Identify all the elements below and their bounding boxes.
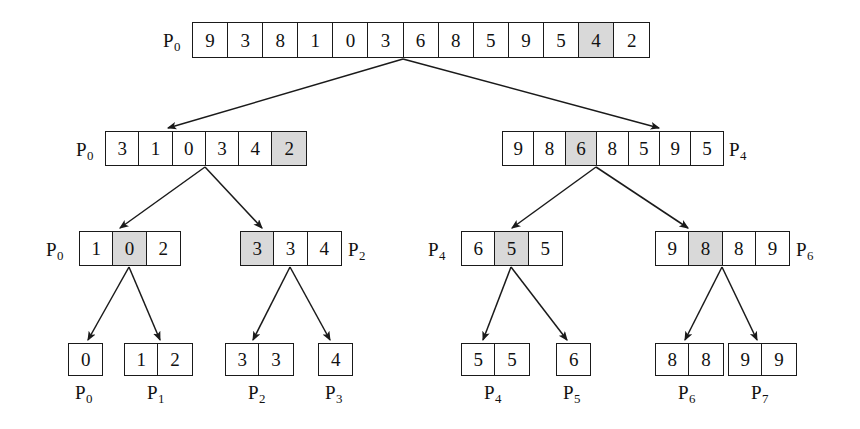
processor-label: P0 [75, 383, 93, 402]
processor-label: P4 [484, 383, 502, 402]
processor-label-text: P [751, 382, 762, 403]
processor-label-index: 4 [740, 148, 747, 163]
array-node: 9889 [655, 231, 790, 266]
array-cell: 2 [614, 23, 649, 57]
array-cell: 6 [557, 344, 590, 375]
processor-label-text: P [76, 139, 87, 160]
tree-edge [511, 267, 567, 340]
processor-label-index: 2 [259, 391, 266, 406]
array-cell: 8 [656, 344, 689, 375]
tree-edge [483, 267, 511, 340]
array-cell: 8 [597, 132, 628, 165]
array-cell: 5 [529, 232, 562, 265]
array-node: 88 [655, 343, 724, 376]
array-node: 99 [728, 343, 797, 376]
array-cell-pivot: 2 [272, 132, 305, 165]
array-cell: 4 [239, 132, 272, 165]
array-cell: 9 [656, 232, 689, 265]
tree-edge [205, 167, 262, 228]
processor-label: P4 [428, 240, 446, 259]
tree-edge [129, 267, 160, 340]
tree-edge [168, 59, 403, 128]
processor-label: P6 [796, 240, 814, 259]
tree-edge [290, 267, 330, 340]
tree-edge [596, 167, 688, 228]
array-cell: 4 [308, 232, 341, 265]
array-cell-pivot: 5 [495, 232, 528, 265]
processor-label-index: 0 [174, 39, 181, 54]
tree-edge [403, 59, 659, 128]
array-cell-pivot: 4 [579, 23, 614, 57]
processor-label: P4 [729, 140, 747, 159]
processor-label: P3 [325, 383, 343, 402]
array-cell: 8 [534, 132, 565, 165]
processor-label-text: P [46, 239, 57, 260]
processor-label-text: P [563, 382, 574, 403]
array-node: 6 [556, 343, 591, 376]
processor-label-index: 1 [158, 391, 165, 406]
array-cell: 1 [125, 344, 158, 375]
array-node: 334 [240, 231, 342, 266]
processor-label-index: 0 [57, 248, 64, 263]
processor-label-index: 4 [495, 391, 502, 406]
array-cell: 0 [69, 344, 102, 375]
array-cell: 5 [474, 23, 509, 57]
array-cell: 9 [660, 132, 691, 165]
processor-label-text: P [147, 382, 158, 403]
processor-label-index: 2 [359, 248, 366, 263]
processor-label-text: P [678, 382, 689, 403]
processor-label: P5 [563, 383, 581, 402]
array-node: 9868595 [502, 131, 724, 166]
partition-tree-diagram: 9381036859542P0310342P09868595P4102P0334… [0, 0, 860, 429]
array-cell: 2 [158, 344, 191, 375]
processor-label-text: P [729, 139, 740, 160]
array-cell: 3 [259, 344, 292, 375]
processor-label-text: P [325, 382, 336, 403]
array-cell: 3 [226, 344, 259, 375]
array-cell: 9 [193, 23, 228, 57]
array-cell: 1 [80, 232, 113, 265]
array-node: 33 [225, 343, 294, 376]
processor-label-text: P [75, 382, 86, 403]
array-node: 55 [461, 343, 530, 376]
array-cell: 8 [263, 23, 298, 57]
processor-label-text: P [484, 382, 495, 403]
processor-label-index: 7 [762, 391, 769, 406]
array-cell: 3 [368, 23, 403, 57]
array-cell: 0 [173, 132, 206, 165]
array-node: 9381036859542 [192, 22, 650, 58]
array-cell: 9 [509, 23, 544, 57]
array-cell: 5 [629, 132, 660, 165]
processor-label: P0 [46, 240, 64, 259]
array-cell-pivot: 3 [241, 232, 274, 265]
processor-label-text: P [796, 239, 807, 260]
processor-label-text: P [348, 239, 359, 260]
processor-label-index: 3 [336, 391, 343, 406]
processor-label-index: 0 [86, 391, 93, 406]
array-cell: 9 [756, 232, 789, 265]
array-cell: 3 [228, 23, 263, 57]
processor-label-index: 4 [439, 248, 446, 263]
array-cell: 5 [495, 344, 528, 375]
tree-edge [88, 267, 129, 340]
array-node: 12 [124, 343, 193, 376]
array-node: 655 [461, 231, 563, 266]
processor-label: P2 [248, 383, 266, 402]
processor-label-index: 5 [574, 391, 581, 406]
array-cell: 8 [439, 23, 474, 57]
array-cell: 8 [689, 344, 722, 375]
array-node: 4 [318, 343, 353, 376]
array-cell: 3 [274, 232, 307, 265]
processor-label-index: 0 [87, 148, 94, 163]
array-node: 310342 [105, 131, 307, 166]
tree-edge [253, 267, 290, 340]
array-cell: 8 [723, 232, 756, 265]
processor-label: P6 [678, 383, 696, 402]
processor-label-text: P [248, 382, 259, 403]
tree-edge [722, 267, 757, 340]
array-cell: 5 [544, 23, 579, 57]
array-cell: 5 [462, 344, 495, 375]
array-cell: 3 [206, 132, 239, 165]
array-cell: 4 [319, 344, 352, 375]
array-cell: 5 [691, 132, 722, 165]
